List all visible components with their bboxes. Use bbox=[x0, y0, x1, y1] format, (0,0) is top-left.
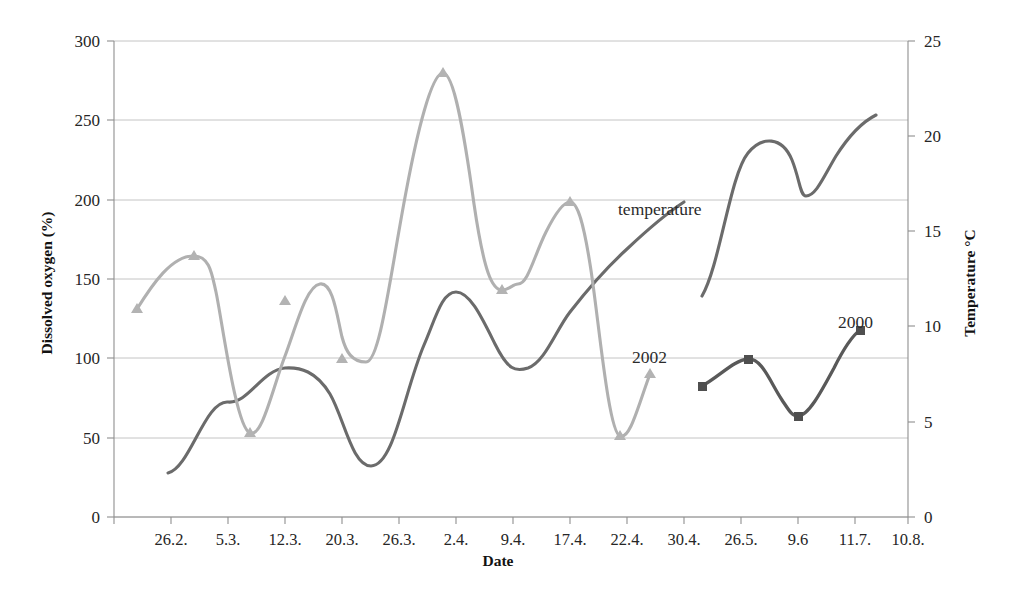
left-tick-label-300: 300 bbox=[75, 32, 101, 51]
x-axis-title: Date bbox=[483, 552, 514, 569]
annotation-2002: 2002 bbox=[632, 347, 667, 367]
right-tick-label-5: 5 bbox=[924, 413, 933, 432]
chart-container: 300 250 200 150 100 50 0 25 20 15 10 5 0… bbox=[0, 0, 1018, 592]
xtick-label-9: 30.4. bbox=[668, 530, 701, 549]
marker-2000-1 bbox=[744, 355, 753, 364]
xtick-label-3: 20.3. bbox=[326, 530, 359, 549]
right-tick-label-25: 25 bbox=[924, 32, 941, 51]
right-tick-label-0: 0 bbox=[924, 508, 933, 527]
left-tick-label-200: 200 bbox=[75, 191, 101, 210]
marker-2000-0 bbox=[698, 382, 707, 391]
chart-canvas: 300 250 200 150 100 50 0 25 20 15 10 5 0… bbox=[0, 0, 1018, 592]
marker-2000-2 bbox=[794, 412, 803, 421]
xtick-label-1: 5.3. bbox=[216, 530, 241, 549]
right-axis-title: Temperature °C bbox=[961, 229, 978, 336]
xtick-label-11: 9.6 bbox=[788, 530, 809, 549]
xtick-label-10: 26.5. bbox=[725, 530, 758, 549]
chart-background bbox=[0, 0, 1018, 592]
xtick-label-2: 12.3. bbox=[269, 530, 302, 549]
xtick-label-0: 26.2. bbox=[155, 530, 188, 549]
xtick-label-13: 10.8. bbox=[892, 530, 925, 549]
right-tick-label-10: 10 bbox=[924, 317, 941, 336]
left-tick-label-50: 50 bbox=[83, 429, 100, 448]
left-tick-label-0: 0 bbox=[92, 508, 101, 527]
left-tick-label-100: 100 bbox=[75, 349, 101, 368]
right-tick-label-15: 15 bbox=[924, 222, 941, 241]
xtick-label-8: 22.4. bbox=[611, 530, 644, 549]
xtick-label-4: 26.3. bbox=[383, 530, 416, 549]
xtick-label-6: 9.4. bbox=[501, 530, 526, 549]
xtick-label-12: 11.7. bbox=[839, 530, 871, 549]
annotation-temperature: temperature bbox=[618, 199, 702, 219]
annotation-2000: 2000 bbox=[838, 312, 873, 332]
left-axis-title: Dissolved oxygen (%) bbox=[38, 212, 56, 355]
left-tick-label-250: 250 bbox=[75, 111, 101, 130]
xtick-label-5: 2.4. bbox=[444, 530, 469, 549]
left-tick-label-150: 150 bbox=[75, 270, 101, 289]
right-tick-label-20: 20 bbox=[924, 127, 941, 146]
xtick-label-7: 17.4. bbox=[554, 530, 587, 549]
